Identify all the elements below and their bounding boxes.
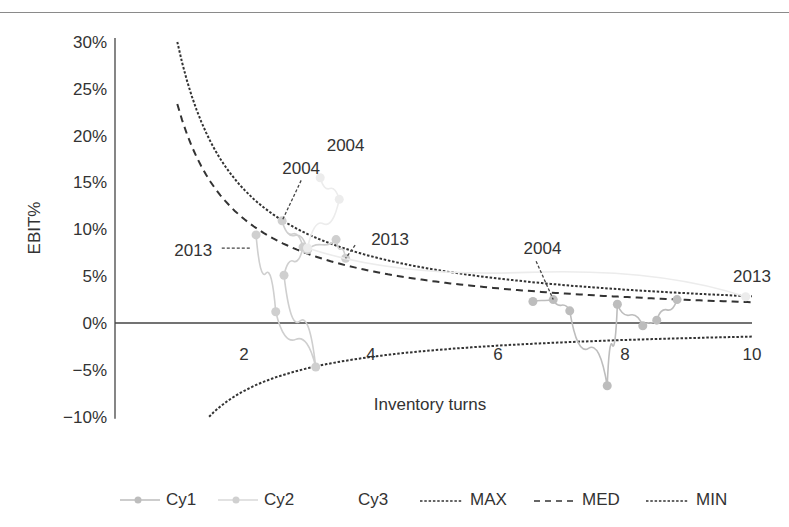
- x-tick-label: 6: [493, 345, 502, 364]
- legend-swatch-med: [534, 495, 576, 505]
- annotation-label: 2013: [733, 267, 771, 286]
- annotation-label: 2004: [327, 136, 365, 155]
- data-point: [673, 295, 682, 304]
- legend-label-cy1: Cy1: [166, 490, 196, 510]
- annotation-leader: [282, 180, 301, 220]
- y-tick-label: 10%: [73, 220, 107, 239]
- y-tick-label: 0%: [82, 314, 107, 333]
- legend-item-min: MIN: [646, 485, 727, 515]
- y-axis-title: EBIT%: [25, 202, 44, 255]
- legend-label-min: MIN: [696, 490, 727, 510]
- y-tick-label: 20%: [73, 127, 107, 146]
- axes: [115, 38, 752, 419]
- tick-labels: 30%25%20%15%10%5%0%−5%−10%246810: [63, 33, 761, 427]
- annotation-label: 2004: [524, 239, 562, 258]
- legend-label-max: MAX: [470, 490, 507, 510]
- chart-plot: 200420042013201320042013 30%25%20%15%10%…: [0, 0, 789, 480]
- legend-label-cy3: Cy3: [358, 490, 388, 510]
- data-point: [565, 306, 574, 315]
- series-line-cy2: [256, 221, 346, 367]
- x-tick-label: 2: [239, 345, 248, 364]
- data-point: [311, 363, 320, 372]
- x-tick-label: 10: [743, 345, 762, 364]
- annotation-label: 2013: [371, 230, 409, 249]
- data-point: [528, 297, 537, 306]
- data-point: [271, 307, 280, 316]
- curve-max: [177, 42, 752, 296]
- legend-label-med: MED: [582, 490, 620, 510]
- data-point: [303, 244, 312, 253]
- data-point: [252, 230, 261, 239]
- x-axis-title: Inventory turns: [374, 395, 486, 414]
- legend-item-cy2: Cy2: [218, 485, 294, 515]
- data-point: [638, 321, 647, 330]
- y-tick-label: 30%: [73, 33, 107, 52]
- annotation-leader: [536, 261, 553, 299]
- legend-item-cy3: Cy3: [358, 485, 388, 515]
- y-tick-label: 5%: [82, 267, 107, 286]
- y-tick-label: −5%: [73, 361, 108, 380]
- data-point: [335, 195, 344, 204]
- data-point: [280, 271, 289, 280]
- legend-swatch-min: [646, 495, 690, 505]
- data-point: [741, 292, 750, 301]
- reference-curves: [177, 42, 752, 417]
- legend-swatch-max: [420, 495, 464, 505]
- annotation-label: 2013: [174, 241, 212, 260]
- legend-item-max: MAX: [420, 485, 507, 515]
- data-point: [332, 235, 341, 244]
- series-line-cy1: [533, 300, 677, 386]
- x-tick-label: 4: [366, 345, 375, 364]
- legend-swatch-cy1: [120, 495, 160, 505]
- legend-item-med: MED: [534, 485, 620, 515]
- legend-swatch-cy2: [218, 495, 258, 505]
- y-tick-label: 25%: [73, 80, 107, 99]
- legend-item-cy1: Cy1: [120, 485, 196, 515]
- x-tick-label: 8: [620, 345, 629, 364]
- y-tick-label: 15%: [73, 173, 107, 192]
- legend: Cy1 Cy2 Cy3 MAX MED MIN: [0, 485, 789, 515]
- annotation-label: 2004: [282, 159, 320, 178]
- legend-label-cy2: Cy2: [264, 490, 294, 510]
- data-point: [613, 300, 622, 309]
- y-tick-label: −10%: [63, 408, 107, 427]
- data-point: [603, 381, 612, 390]
- data-point: [652, 316, 661, 325]
